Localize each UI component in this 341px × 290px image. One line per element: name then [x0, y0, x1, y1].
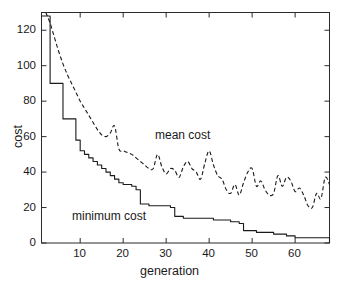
x-tick-label: 30	[159, 248, 172, 260]
y-tick-label: 40	[14, 166, 36, 178]
y-tick-label: 60	[14, 131, 36, 143]
x-tick-label: 50	[245, 248, 258, 260]
y-tick-label: 80	[14, 95, 36, 107]
x-tick-label: 40	[202, 248, 215, 260]
series-line-mean-cost	[46, 13, 330, 209]
y-tick-label: 0	[14, 237, 36, 249]
x-tick-label: 20	[116, 248, 129, 260]
y-tick-label: 100	[14, 60, 36, 72]
annotation-mean-cost: mean cost	[155, 129, 210, 141]
x-axis-label: generation	[140, 265, 199, 278]
chart-figure: mean cost minimum cost cost generation 1…	[0, 0, 341, 290]
x-tick-label: 10	[73, 248, 86, 260]
y-tick-label: 20	[14, 202, 36, 214]
annotation-minimum-cost: minimum cost	[72, 210, 146, 222]
y-tick-label: 120	[14, 24, 36, 36]
x-tick-label: 60	[288, 248, 301, 260]
